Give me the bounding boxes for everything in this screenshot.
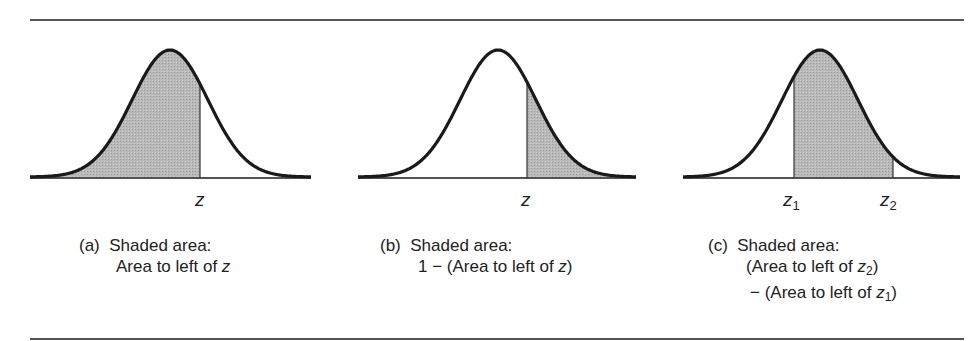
caption-text: ) xyxy=(873,257,879,276)
caption-line: (Area to left of z2) xyxy=(708,256,897,282)
z-symbol: z xyxy=(222,257,231,276)
caption-text: (Area to left of xyxy=(746,257,858,276)
panel-c-curve xyxy=(683,50,960,178)
z-symbol: z xyxy=(558,257,567,276)
caption-line: 1 − (Area to left of z) xyxy=(380,256,573,277)
caption-text: 1 − (Area to left of xyxy=(418,257,558,276)
subscript: 1 xyxy=(793,198,800,213)
z-symbol: z xyxy=(880,189,890,210)
panel-c-caption: (c) Shaded area: (Area to left of z2) − … xyxy=(708,235,897,308)
panel-c-z1-label: z1 xyxy=(783,189,800,213)
panel-b-caption: (b) Shaded area: 1 − (Area to left of z) xyxy=(380,235,573,277)
z-symbol: z xyxy=(195,189,205,210)
panel-a-curve xyxy=(30,50,311,178)
caption-text: ) xyxy=(567,257,573,276)
caption-line: − (Area to left of z1) xyxy=(708,282,897,308)
z-symbol: z xyxy=(783,189,793,210)
caption-letter: (b) xyxy=(380,236,401,255)
caption-title: Shaded area: xyxy=(737,236,839,255)
caption-title-line: (b) Shaded area: xyxy=(380,235,573,256)
panel-c-z2-label: z2 xyxy=(880,189,897,213)
caption-title: Shaded area: xyxy=(109,236,211,255)
caption-text: ) xyxy=(891,283,897,302)
z-symbol: z xyxy=(521,189,531,210)
caption-title: Shaded area: xyxy=(410,236,512,255)
caption-text: − (Area to left of xyxy=(750,283,876,302)
caption-line: Area to left of z xyxy=(79,256,230,277)
z-symbol: z xyxy=(876,283,885,302)
subscript: 2 xyxy=(866,264,873,278)
caption-letter: (c) xyxy=(708,236,728,255)
panel-a-z-label: z xyxy=(195,189,205,211)
caption-title-line: (c) Shaded area: xyxy=(708,235,897,256)
caption-text: Area to left of xyxy=(116,257,222,276)
z-symbol: z xyxy=(858,257,867,276)
subscript: 2 xyxy=(890,198,897,213)
panel-a-caption: (a) Shaded area: Area to left of z xyxy=(79,235,230,277)
caption-letter: (a) xyxy=(79,236,100,255)
caption-title-line: (a) Shaded area: xyxy=(79,235,230,256)
panel-b-z-label: z xyxy=(521,189,531,211)
panel-b-curve xyxy=(358,50,636,178)
